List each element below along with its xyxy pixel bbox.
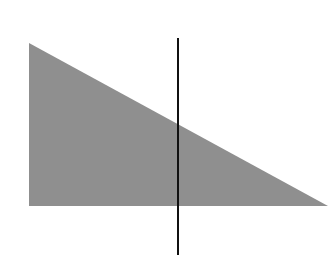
diagram-canvas	[0, 0, 335, 255]
